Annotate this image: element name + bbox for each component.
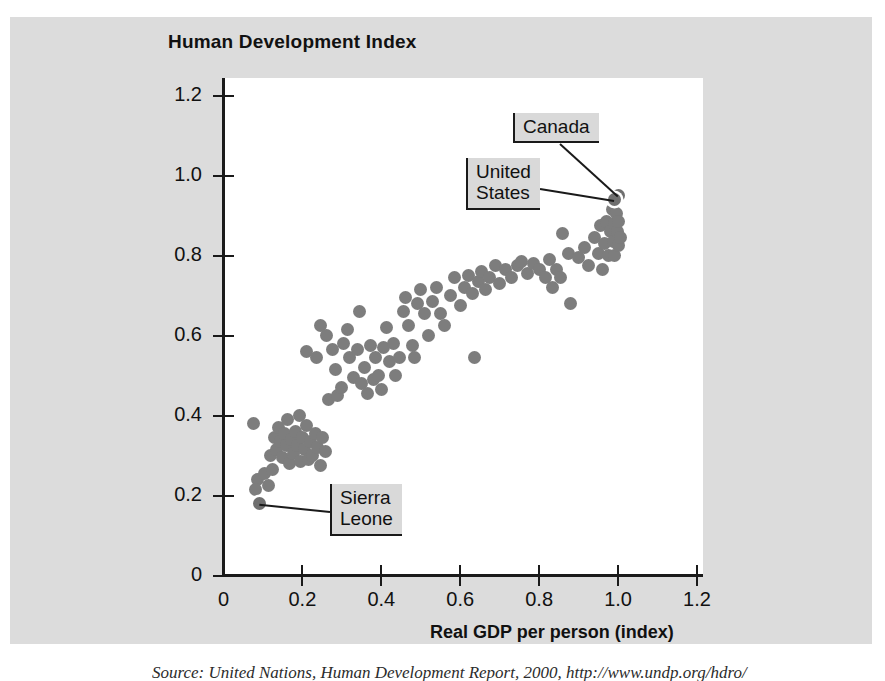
y-axis-line bbox=[222, 78, 225, 577]
x-axis-tick bbox=[459, 565, 461, 586]
y-axis-tick bbox=[213, 575, 234, 577]
x-axis-tick bbox=[380, 565, 382, 586]
x-axis-tick bbox=[301, 565, 303, 586]
x-axis-tick-label: 0.6 bbox=[430, 588, 490, 611]
y-axis-tick-label: 0.6 bbox=[140, 323, 202, 346]
scatter-point bbox=[319, 445, 332, 458]
x-axis-tick bbox=[617, 565, 619, 586]
scatter-point bbox=[389, 369, 402, 382]
scatter-point bbox=[314, 459, 327, 472]
x-axis-tick-label: 1.2 bbox=[667, 588, 727, 611]
annotation-callout: United States bbox=[466, 158, 540, 210]
y-axis-tick-label: 1.2 bbox=[140, 83, 202, 106]
y-axis-tick-label: 0.2 bbox=[140, 483, 202, 506]
scatter-point bbox=[399, 291, 412, 304]
y-axis-tick bbox=[213, 255, 234, 257]
y-axis-tick-label: 1.0 bbox=[140, 163, 202, 186]
x-axis-tick-label: 0.8 bbox=[509, 588, 569, 611]
annotation-callout: Sierra Leone bbox=[330, 484, 402, 536]
scatter-point bbox=[372, 369, 385, 382]
y-axis-tick-label: 0.8 bbox=[140, 243, 202, 266]
scatter-point bbox=[393, 351, 406, 364]
x-axis-tick-label: 1.0 bbox=[588, 588, 648, 611]
x-axis-tick-label: 0 bbox=[194, 588, 254, 611]
x-axis-tick bbox=[538, 565, 540, 586]
scatter-point bbox=[387, 337, 400, 350]
page-title: Human Development Index bbox=[168, 31, 416, 53]
scatter-point bbox=[614, 231, 627, 244]
x-axis-tick bbox=[696, 565, 698, 586]
x-axis-line bbox=[222, 574, 703, 577]
scatter-point bbox=[316, 431, 329, 444]
scatter-point bbox=[466, 287, 479, 300]
source-caption: Source: United Nations, Human Developmen… bbox=[152, 663, 852, 681]
annotation-callout: Canada bbox=[513, 113, 599, 143]
y-axis-tick-label: 0.4 bbox=[140, 403, 202, 426]
y-axis-tick bbox=[213, 335, 234, 337]
x-axis-tick-label: 0.2 bbox=[272, 588, 332, 611]
scatter-point bbox=[454, 299, 467, 312]
y-axis-tick bbox=[213, 175, 234, 177]
y-axis-tick bbox=[213, 495, 234, 497]
scatter-point bbox=[310, 351, 323, 364]
scatter-point bbox=[247, 417, 260, 430]
scatter-point bbox=[375, 383, 388, 396]
plot-area bbox=[225, 78, 703, 574]
scatter-point bbox=[320, 329, 333, 342]
y-axis-tick bbox=[213, 415, 234, 417]
y-axis-tick-label: 0 bbox=[140, 563, 202, 586]
scatter-point bbox=[468, 351, 481, 364]
scatter-point bbox=[380, 321, 393, 334]
x-axis-tick-label: 0.4 bbox=[351, 588, 411, 611]
y-axis-tick bbox=[213, 95, 234, 97]
scatter-point bbox=[397, 305, 410, 318]
x-axis-title: Real GDP per person (index) bbox=[430, 622, 674, 643]
